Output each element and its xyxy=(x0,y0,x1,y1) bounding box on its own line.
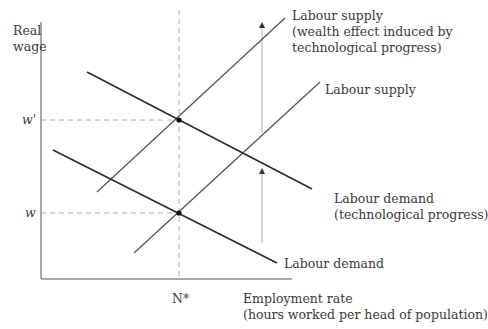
x-axis-label-line2: (hours worked per head of population) xyxy=(243,307,488,323)
label-line: Labour demand xyxy=(334,191,488,207)
label-line: (technological progress) xyxy=(334,207,488,223)
equilibrium-high-point xyxy=(176,117,181,122)
labour-demand-label: Labour demand xyxy=(284,256,384,272)
label-line: Labour supply xyxy=(292,8,453,24)
labour-demand-tech-line xyxy=(87,72,312,189)
label-line: technological progress) xyxy=(292,40,453,56)
label-line: (wealth effect induced by xyxy=(292,24,453,40)
y-axis-label-line2: wage xyxy=(13,39,39,55)
w-tick: w xyxy=(25,205,36,221)
labour-supply-label: Labour supply xyxy=(325,82,416,98)
labour-supply-wealth-line xyxy=(97,18,285,192)
labour-supply-wealth-label: Labour supply (wealth effect induced by … xyxy=(292,8,453,56)
y-axis-label-line1: Real xyxy=(13,23,39,39)
w-prime-tick: w' xyxy=(22,112,36,128)
labour-demand-line xyxy=(53,150,277,263)
labour-demand-tech-label: Labour demand (technological progress) xyxy=(334,191,488,223)
n-star-tick: N* xyxy=(172,291,189,307)
x-axis-label: Employment rate (hours worked per head o… xyxy=(243,291,488,323)
x-axis-label-line1: Employment rate xyxy=(243,291,488,307)
equilibrium-low-point xyxy=(176,210,181,215)
y-axis-label: Real wage xyxy=(13,23,39,55)
labour-supply-line xyxy=(134,82,320,253)
